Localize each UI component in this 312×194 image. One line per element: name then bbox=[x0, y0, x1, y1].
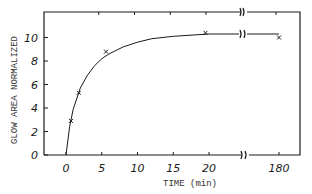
fitted-curve bbox=[66, 34, 239, 155]
y-axis-title: GLOW AREA NORMALIZED bbox=[10, 36, 20, 144]
axis-break-top bbox=[240, 8, 244, 16]
y-tick-label: 6 bbox=[31, 79, 38, 92]
axis-break-bottom bbox=[241, 151, 246, 159]
y-tick-label: 2 bbox=[31, 126, 38, 139]
x-tick-label: 0 bbox=[63, 162, 70, 175]
x-tick-label: 180 bbox=[269, 162, 290, 175]
y-tick-label: 4 bbox=[31, 102, 38, 115]
y-tick-label: 8 bbox=[31, 55, 38, 68]
y-tick-label: 0 bbox=[31, 149, 38, 162]
axis-break-curve bbox=[240, 30, 245, 38]
x-marker bbox=[104, 50, 108, 54]
x-axis-title: TIME (min) bbox=[163, 179, 217, 189]
y-tick-label: 10 bbox=[24, 32, 38, 45]
x-tick-label: 10 bbox=[131, 162, 145, 175]
x-tick-label: 5 bbox=[98, 162, 105, 175]
x-tick-label: 20 bbox=[202, 162, 216, 175]
x-marker bbox=[277, 36, 281, 40]
x-tick-label: 15 bbox=[166, 162, 180, 175]
data-markers bbox=[69, 31, 281, 123]
chart: 0246810 05101520180 TIME (min) GLOW AREA… bbox=[0, 0, 312, 194]
